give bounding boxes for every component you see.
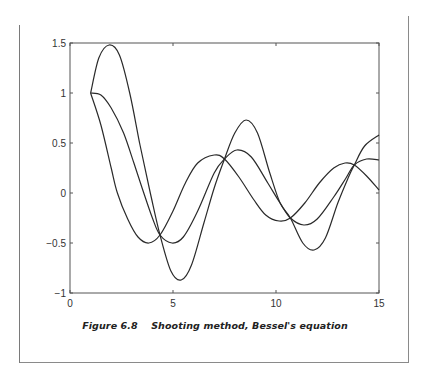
y-tick-label: 0.5	[52, 138, 66, 149]
x-tick-label: 10	[270, 298, 282, 309]
x-tick-label: 5	[170, 298, 176, 309]
axis-ticks: 051015−1−0.500.511.5	[46, 38, 385, 309]
x-tick-label: 15	[373, 298, 385, 309]
y-tick-label: −1	[55, 288, 67, 299]
y-tick-label: 1.5	[52, 38, 66, 49]
y-tick-label: 1	[60, 88, 66, 99]
y-tick-label: −0.5	[46, 238, 66, 249]
figure-caption: Figure 6.8 Shooting method, Bessel's equ…	[0, 320, 430, 331]
y-tick-label: 0	[60, 188, 66, 199]
x-tick-label: 0	[67, 298, 73, 309]
figure-number: Figure 6.8	[82, 320, 138, 331]
figure-title: Shooting method, Bessel's equation	[151, 320, 348, 331]
chart-curves	[91, 45, 379, 280]
axes-box	[70, 43, 379, 293]
plot-area-frame	[70, 43, 379, 293]
